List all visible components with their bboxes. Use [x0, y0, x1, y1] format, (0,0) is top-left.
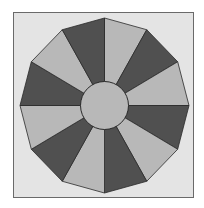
center-circle: [81, 82, 129, 130]
dodecagon-diagram: [0, 0, 204, 208]
